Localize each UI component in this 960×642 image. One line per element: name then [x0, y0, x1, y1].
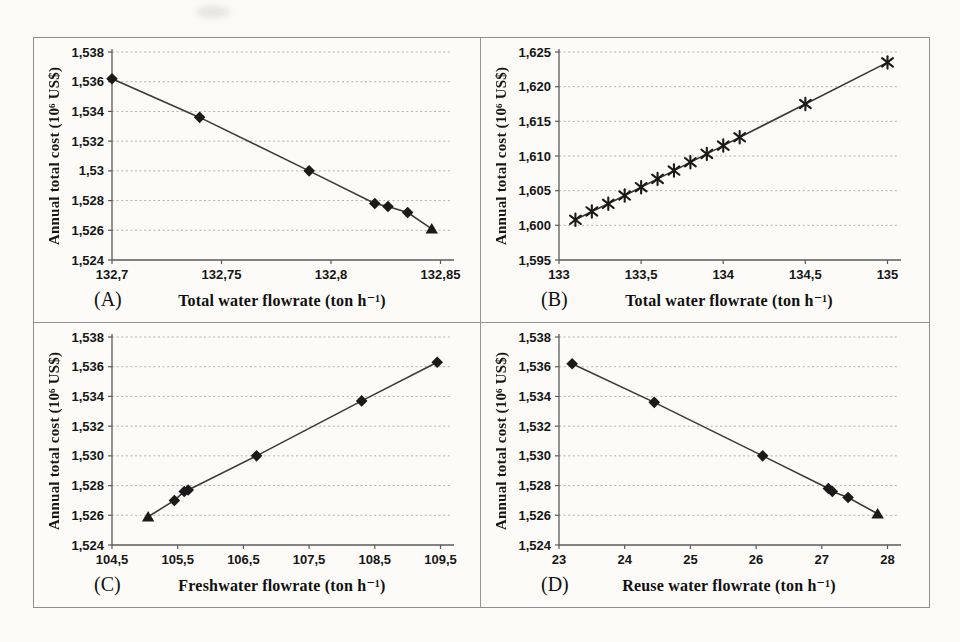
y-tick-label: 1,532 — [71, 419, 104, 434]
y-tick-label: 1,538 — [71, 330, 104, 345]
chart-panel-c: Annual total cost (10⁶ US$) 1,5241,5261,… — [34, 323, 480, 607]
y-tick-label: 1,538 — [518, 330, 551, 345]
asterisk-marker — [800, 98, 811, 110]
y-tick-label: 1,524 — [71, 538, 104, 553]
y-tick-label: 1,524 — [518, 538, 551, 553]
y-tick-label: 1,536 — [518, 359, 551, 374]
figure-cell-a: Annual total cost (10⁶ US$) 1,5241,5261,… — [34, 38, 480, 322]
x-tick-label: 28 — [880, 552, 894, 567]
caption-row: (C) Freshwater flowrate (ton h⁻¹) — [34, 569, 480, 605]
y-tick-label: 1,526 — [71, 223, 104, 238]
x-tick-label: 108,5 — [359, 552, 392, 567]
x-tick-label: 132,75 — [202, 267, 242, 282]
asterisk-marker — [718, 139, 729, 151]
chart-plot-d: 1,5241,5261,5281,5301,5321,5341,5361,538… — [481, 323, 927, 569]
y-tick-label: 1,534 — [518, 389, 551, 404]
x-tick-label: 132,85 — [421, 267, 461, 282]
x-axis-title: Freshwater flowrate (ton h⁻¹) — [112, 576, 452, 595]
diamond-marker — [303, 165, 315, 177]
diamond-marker — [369, 198, 381, 210]
asterisk-marker — [603, 198, 614, 210]
x-tick-label: 132,8 — [315, 267, 348, 282]
x-axis-title: Total water flowrate (ton h⁻¹) — [112, 291, 452, 310]
y-tick-label: 1,620 — [518, 79, 551, 94]
y-tick-label: 1,625 — [518, 45, 551, 60]
x-axis-title: Total water flowrate (ton h⁻¹) — [559, 291, 899, 310]
x-tick-label: 134,5 — [789, 267, 822, 282]
chart-panel-d: Annual total cost (10⁶ US$) 1,5241,5261,… — [481, 323, 929, 607]
x-tick-label: 134 — [712, 267, 734, 282]
y-tick-label: 1,53 — [79, 163, 104, 178]
y-tick-label: 1,605 — [518, 183, 551, 198]
y-tick-label: 1,600 — [518, 218, 551, 233]
asterisk-marker — [734, 131, 745, 143]
x-tick-label: 135 — [877, 267, 899, 282]
asterisk-marker — [685, 156, 696, 168]
x-tick-label: 26 — [749, 552, 763, 567]
x-tick-label: 132,7 — [96, 267, 129, 282]
y-tick-label: 1,524 — [71, 253, 104, 268]
y-tick-label: 1,534 — [71, 389, 104, 404]
asterisk-marker — [669, 164, 680, 176]
y-tick-label: 1,526 — [518, 508, 551, 523]
asterisk-marker — [586, 205, 597, 217]
y-tick-label: 1,530 — [71, 448, 104, 463]
y-tick-label: 1,528 — [71, 478, 104, 493]
diamond-marker — [106, 73, 118, 85]
diamond-marker — [194, 112, 206, 124]
diamond-marker — [251, 450, 263, 462]
caption-row: (A) Total water flowrate (ton h⁻¹) — [34, 284, 480, 320]
y-tick-label: 1,530 — [518, 448, 551, 463]
asterisk-marker — [882, 56, 893, 68]
y-tick-label: 1,528 — [71, 193, 104, 208]
x-tick-label: 133,5 — [625, 267, 658, 282]
asterisk-marker — [570, 214, 581, 226]
chart-panel-a: Annual total cost (10⁶ US$) 1,5241,5261,… — [34, 38, 480, 322]
scanned-figure-page: Annual total cost (10⁶ US$) 1,5241,5261,… — [0, 0, 960, 642]
x-tick-label: 104,5 — [96, 552, 129, 567]
asterisk-marker — [701, 148, 712, 160]
x-tick-label: 23 — [552, 552, 566, 567]
y-tick-label: 1,615 — [518, 114, 551, 129]
diamond-marker — [402, 207, 414, 219]
x-tick-label: 25 — [683, 552, 697, 567]
x-tick-label: 24 — [617, 552, 632, 567]
chart-plot-a: 1,5241,5261,5281,531,5321,5341,5361,5381… — [34, 38, 480, 284]
triangle-marker — [871, 508, 883, 519]
y-tick-label: 1,532 — [518, 419, 551, 434]
y-tick-label: 1,538 — [71, 45, 104, 60]
asterisk-marker — [636, 181, 647, 193]
triangle-marker — [142, 511, 154, 522]
diamond-marker — [648, 397, 660, 409]
x-tick-label: 105,5 — [161, 552, 194, 567]
y-tick-label: 1,532 — [71, 134, 104, 149]
y-tick-label: 1,528 — [518, 478, 551, 493]
triangle-marker — [426, 223, 438, 234]
y-tick-label: 1,526 — [71, 508, 104, 523]
asterisk-marker — [619, 189, 630, 201]
x-tick-label: 133 — [548, 267, 570, 282]
y-tick-label: 1,536 — [71, 359, 104, 374]
diamond-marker — [566, 358, 578, 370]
asterisk-marker — [652, 173, 663, 185]
scan-artifact — [196, 6, 230, 18]
diamond-marker — [757, 450, 769, 462]
x-tick-label: 106,5 — [227, 552, 260, 567]
diamond-marker — [431, 356, 443, 368]
x-tick-label: 109,5 — [424, 552, 457, 567]
figure-box: Annual total cost (10⁶ US$) 1,5241,5261,… — [33, 37, 930, 608]
figure-cell-b: Annual total cost (10⁶ US$) 1,5951,6001,… — [480, 38, 929, 322]
figure-cell-d: Annual total cost (10⁶ US$) 1,5241,5261,… — [480, 322, 929, 607]
x-tick-label: 107,5 — [293, 552, 326, 567]
caption-row: (D) Reuse water flowrate (ton h⁻¹) — [481, 569, 929, 605]
chart-plot-b: 1,5951,6001,6051,6101,6151,6201,62513313… — [481, 38, 927, 284]
diamond-marker — [842, 492, 854, 504]
y-tick-label: 1,536 — [71, 74, 104, 89]
y-tick-label: 1,534 — [71, 104, 104, 119]
chart-panel-b: Annual total cost (10⁶ US$) 1,5951,6001,… — [481, 38, 929, 322]
caption-row: (B) Total water flowrate (ton h⁻¹) — [481, 284, 929, 320]
figure-cell-c: Annual total cost (10⁶ US$) 1,5241,5261,… — [34, 322, 480, 607]
diamond-marker — [382, 201, 394, 213]
x-axis-title: Reuse water flowrate (ton h⁻¹) — [559, 576, 899, 595]
x-tick-label: 27 — [815, 552, 829, 567]
